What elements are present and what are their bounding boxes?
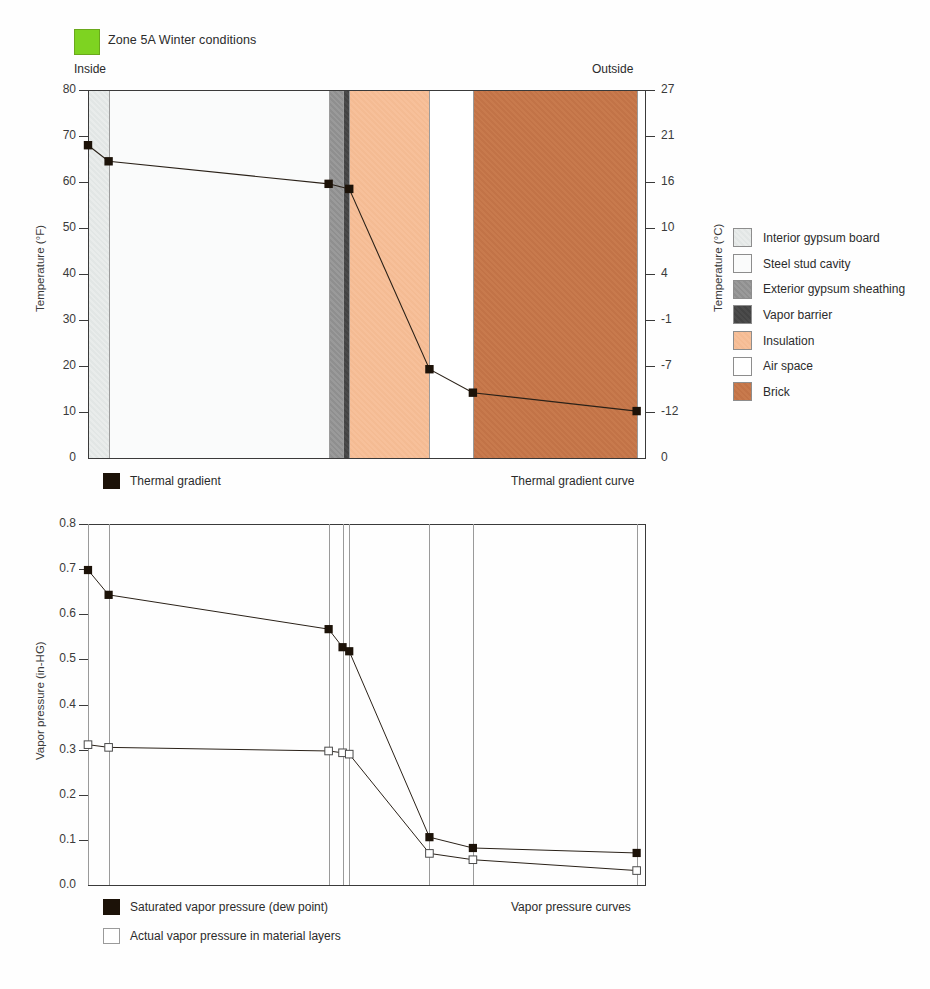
- vapor-data-point: [345, 647, 353, 655]
- vapor-line-actual: [88, 745, 637, 871]
- vapor-data-point: [105, 591, 113, 599]
- actual-vapor-key-label: Actual vapor pressure in material layers: [130, 929, 341, 943]
- actual-vapor-key-swatch: [103, 928, 120, 944]
- vapor-data-point: [84, 566, 92, 574]
- vapor-data-point: [426, 850, 434, 858]
- vapor-data-point: [105, 744, 113, 752]
- vapor-pressure-series: [0, 0, 930, 989]
- vapor-data-point: [325, 747, 333, 755]
- vapor-data-point: [469, 856, 477, 864]
- saturated-vapor-key-label: Saturated vapor pressure (dew point): [130, 900, 328, 914]
- vapor-data-point: [345, 750, 353, 758]
- vapor-data-point: [633, 867, 641, 875]
- vapor-data-point: [325, 625, 333, 633]
- vapor-line-saturated: [88, 570, 637, 853]
- vapor-chart-caption: Vapor pressure curves: [511, 900, 631, 914]
- vapor-data-point: [425, 833, 433, 841]
- vapor-data-point: [469, 844, 477, 852]
- vapor-data-point: [633, 849, 641, 857]
- saturated-vapor-key-swatch: [103, 899, 120, 915]
- vapor-data-point: [84, 741, 92, 749]
